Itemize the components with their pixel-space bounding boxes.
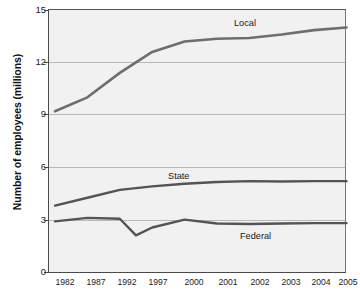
- x-tick-label-2003: 2003: [274, 277, 308, 287]
- plot-border-right: [345, 10, 346, 273]
- gridline-9: [49, 114, 345, 115]
- y-tick-label-12: 12: [18, 56, 46, 67]
- y-axis-line: [48, 10, 49, 273]
- employment-line-chart: Number of employees (millions) 15 12 9 6…: [0, 0, 360, 306]
- x-tick-label-1992: 1992: [110, 277, 144, 287]
- x-axis-line: [48, 272, 346, 273]
- series-label-local: Local: [234, 18, 256, 28]
- x-tick-label-2001: 2001: [211, 277, 245, 287]
- x-tick-label-2005: 2005: [331, 277, 360, 287]
- plot-area: [49, 10, 345, 272]
- series-label-state: State: [168, 171, 189, 181]
- y-tick-label-15: 15: [18, 4, 46, 15]
- y-tick-label-9: 9: [18, 108, 46, 119]
- x-tick-label-2000: 2000: [177, 277, 211, 287]
- plot-border-top: [48, 9, 346, 10]
- series-label-federal: Federal: [240, 231, 271, 241]
- y-tick-label-0: 0: [18, 266, 46, 277]
- x-tick-label-1997: 1997: [141, 277, 175, 287]
- x-tick-label-1987: 1987: [79, 277, 113, 287]
- x-tick-label-2002: 2002: [243, 277, 277, 287]
- y-tick-label-6: 6: [18, 161, 46, 172]
- y-tick-label-3: 3: [18, 214, 46, 225]
- gridline-12: [49, 62, 345, 63]
- gridline-3: [49, 220, 345, 221]
- gridline-6: [49, 167, 345, 168]
- x-tick-label-1982: 1982: [48, 277, 82, 287]
